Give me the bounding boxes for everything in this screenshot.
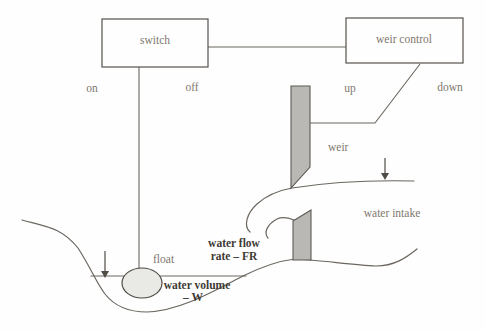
weir-label: weir xyxy=(328,141,349,153)
basin-and-near-bank-curve xyxy=(22,220,417,312)
weir-gate-lower xyxy=(293,210,311,260)
water-flow-rate-line2: rate – FR xyxy=(211,250,258,262)
weir-control-box-label: weir control xyxy=(376,33,432,45)
river-level-arrow xyxy=(381,158,389,180)
water-volume-label: water volume – W xyxy=(164,279,231,303)
diagram-canvas: switch weir control on off up down weir … xyxy=(0,0,485,330)
water-intake-label: water intake xyxy=(364,207,421,219)
float-label: float xyxy=(153,253,175,265)
switch-on-label: on xyxy=(86,82,98,94)
weir-gate-upper xyxy=(291,86,310,188)
water-volume-line2: – W xyxy=(182,291,203,303)
switch-off-label: off xyxy=(185,81,198,93)
weir-up-label: up xyxy=(344,82,356,95)
weir-down-label: down xyxy=(437,81,463,93)
weir-control-linkage-line xyxy=(310,64,420,123)
water-flow-rate-label: water flow rate – FR xyxy=(208,237,261,262)
switch-box-label: switch xyxy=(140,34,170,46)
water-flow-rate-line1: water flow xyxy=(208,237,261,249)
weir-control-diagram: switch weir control on off up down weir … xyxy=(0,0,485,330)
intake-channel-curve xyxy=(266,217,294,238)
basin-level-arrow xyxy=(101,251,109,278)
water-volume-line1: water volume xyxy=(164,279,231,291)
float-ellipse xyxy=(122,268,162,298)
